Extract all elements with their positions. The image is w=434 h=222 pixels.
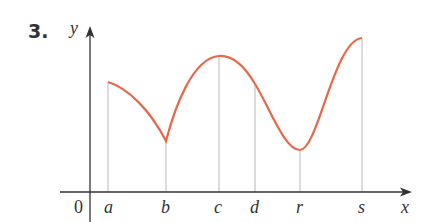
tick-label-d: d [250,197,260,217]
origin-label: 0 [74,197,83,217]
function-graph: y x 0 a b c d r s [0,0,434,222]
y-axis-label: y [68,18,78,38]
tick-label-b: b [161,197,170,217]
function-curve [108,38,362,150]
tick-label-r: r [296,197,304,217]
tick-label-c: c [214,197,222,217]
tick-label-a: a [104,197,113,217]
tick-label-s: s [358,197,365,217]
x-axis-label: x [400,197,409,217]
